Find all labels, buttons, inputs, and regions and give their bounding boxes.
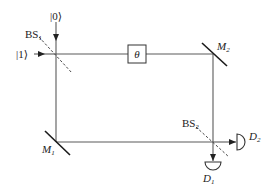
detector-d2-icon xyxy=(237,134,245,150)
beam-splitter-1-label: BS1 xyxy=(25,28,42,42)
detector-d1-label: D1 xyxy=(202,172,214,186)
arrow-down-icon xyxy=(53,34,59,41)
detector-d1-icon xyxy=(205,162,221,170)
arrow-right-icon xyxy=(229,139,236,145)
arrow-down-icon xyxy=(210,154,216,161)
beam-splitter-2-label: BS2 xyxy=(182,117,199,131)
mirror-1-label: M1 xyxy=(41,143,55,157)
mirror-2-label: M2 xyxy=(216,40,230,54)
detector-d2-label: D2 xyxy=(248,130,261,144)
phase-shifter-label: θ xyxy=(134,48,140,60)
input-label-top: |0⟩ xyxy=(50,10,62,22)
mach-zehnder-diagram: θ |0⟩ |1⟩ BS1 BS2 M1 M2 D2 D1 xyxy=(0,0,275,194)
beam-paths xyxy=(34,22,236,161)
input-label-left: |1⟩ xyxy=(16,48,28,60)
arrow-right-icon xyxy=(38,51,45,57)
